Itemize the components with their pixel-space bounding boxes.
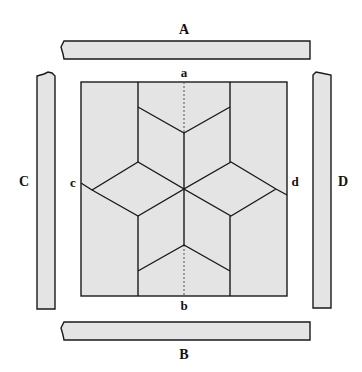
label-b: b [180, 298, 187, 313]
label-c: c [70, 175, 76, 190]
label-B: B [179, 347, 188, 362]
label-C: C [19, 174, 29, 189]
border-strip-right [313, 72, 331, 308]
quilt-diagram: A B C D a b c d [0, 0, 362, 372]
label-d: d [291, 174, 299, 189]
border-strip-bottom [61, 322, 310, 340]
border-strip-left [37, 72, 55, 309]
border-strip-top [61, 41, 310, 59]
label-A: A [179, 22, 190, 37]
label-a: a [181, 65, 188, 80]
label-D: D [338, 174, 348, 189]
